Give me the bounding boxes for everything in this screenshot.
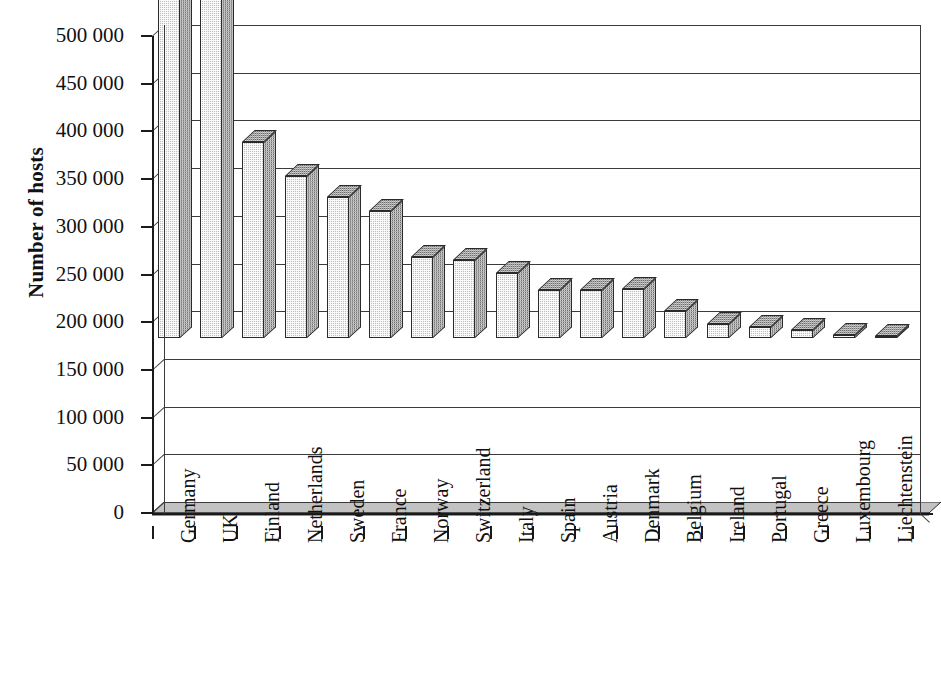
bar-body — [538, 337, 572, 338]
bar-body — [791, 337, 825, 338]
bar[interactable] — [327, 0, 361, 513]
bar-side-face — [264, 131, 276, 338]
bar-side-face — [391, 200, 403, 338]
y-axis-tick-mark — [141, 35, 152, 37]
bar-body — [285, 337, 319, 338]
bar[interactable] — [707, 0, 741, 513]
bar-body — [369, 337, 403, 338]
bar-body — [664, 337, 698, 338]
bar-front-face — [453, 260, 475, 338]
x-axis-tick-label: Denmark — [642, 469, 662, 543]
bar[interactable] — [833, 0, 867, 513]
bar-front-face — [664, 311, 686, 338]
bar-side-face — [560, 279, 572, 338]
bar-front-face — [538, 290, 560, 338]
bar-body — [327, 337, 361, 338]
bar[interactable] — [411, 0, 445, 513]
x-axis-tick-label: Norway — [431, 479, 451, 543]
x-axis-tick-label: Netherlands — [305, 446, 325, 543]
x-axis-tick-label: Switzerland — [473, 447, 493, 543]
bar-body — [622, 337, 656, 338]
bar-body — [749, 337, 783, 338]
bar-body — [200, 337, 234, 338]
bar-side-face — [307, 165, 319, 338]
bar[interactable] — [791, 0, 825, 513]
x-axis-tick-label: Italy — [516, 506, 536, 543]
bar[interactable] — [664, 0, 698, 513]
bar-front-face — [622, 289, 644, 338]
bar[interactable] — [622, 0, 656, 513]
bar-body — [496, 337, 530, 338]
bar-body — [833, 337, 867, 338]
bar-side-face — [349, 186, 361, 338]
bar-body — [875, 337, 909, 338]
bar-front-face — [749, 327, 771, 338]
bar-side-face — [475, 249, 487, 338]
bar[interactable] — [496, 0, 530, 513]
bar-front-face — [242, 142, 264, 338]
bar[interactable] — [538, 0, 572, 513]
plot-area: GermanyUKFinlandNetherlandsSwedenFranceN… — [0, 0, 941, 688]
bar-side-face — [222, 0, 234, 338]
x-axis-line — [152, 513, 933, 515]
bar-body — [580, 337, 614, 338]
bar-front-face — [833, 335, 855, 338]
bar-side-face — [433, 246, 445, 338]
bar-side-face — [180, 0, 192, 338]
bar[interactable] — [369, 0, 403, 513]
y-axis-tick-mark — [141, 226, 152, 228]
x-axis-tick-label: Sweden — [347, 480, 367, 543]
bar-body — [707, 337, 741, 338]
bar-front-face — [580, 290, 602, 338]
x-axis-tick-mark — [152, 526, 154, 539]
figure-canvas: Number of hosts 050 000100 000150 000200… — [0, 0, 941, 688]
x-axis-tick-label: Portugal — [769, 475, 789, 543]
bar[interactable] — [453, 0, 487, 513]
x-axis-tick-label: France — [389, 489, 409, 543]
x-axis-tick-label: Belgium — [684, 474, 704, 543]
x-axis-tick-label: Luxembourg — [853, 440, 873, 543]
y-axis-tick-mark — [141, 178, 152, 180]
bar-side-face — [644, 278, 656, 338]
bar-front-face — [158, 0, 180, 338]
back-wall-left-edge — [164, 25, 165, 514]
bar-front-face — [496, 273, 518, 338]
bar-body — [453, 337, 487, 338]
bar[interactable] — [200, 0, 234, 513]
bar-side-face — [602, 279, 614, 338]
bar-front-face — [707, 324, 729, 338]
y-axis-tick-mark — [141, 512, 152, 514]
x-axis-tick-label: Liechtenstein — [895, 435, 915, 543]
bar-front-face — [369, 211, 391, 338]
x-axis-tick-label: UK — [220, 514, 240, 543]
bar-body — [242, 337, 276, 338]
bar-front-face — [285, 176, 307, 338]
y-axis-line — [152, 36, 154, 515]
bar-front-face — [875, 336, 897, 338]
bar-front-face — [411, 257, 433, 338]
bar-front-face — [791, 330, 813, 338]
bar[interactable] — [242, 0, 276, 513]
x-axis-tick-label: Germany — [178, 469, 198, 543]
x-axis-tick-label: Spain — [558, 497, 578, 543]
bar-body — [411, 337, 445, 338]
bar-front-face — [200, 0, 222, 338]
bar[interactable] — [749, 0, 783, 513]
bar-side-face — [518, 262, 530, 338]
back-wall-right-edge — [920, 25, 921, 514]
bar[interactable] — [580, 0, 614, 513]
bar-front-face — [327, 197, 349, 338]
y-axis-tick-mark — [141, 369, 152, 371]
bar[interactable] — [285, 0, 319, 513]
